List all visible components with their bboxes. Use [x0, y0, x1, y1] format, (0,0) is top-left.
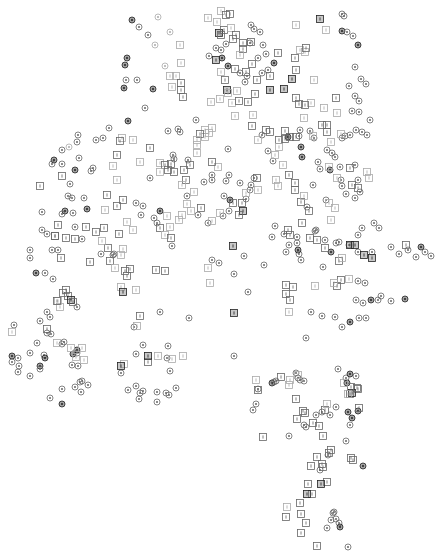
- circle-marker-icon: [355, 42, 361, 48]
- circle-marker-icon: [352, 162, 358, 168]
- circle-marker-icon: [136, 396, 142, 402]
- circle-marker-icon: [75, 363, 81, 369]
- box-marker-icon: [198, 205, 205, 212]
- circle-marker-icon: [59, 401, 65, 407]
- box-marker-icon: [124, 273, 131, 280]
- box-marker-icon: [287, 232, 294, 239]
- box-marker-icon: [9, 329, 16, 336]
- box-marker-icon: [283, 282, 290, 289]
- circle-marker-icon: [242, 79, 248, 85]
- box-marker-icon: [328, 139, 335, 146]
- box-marker-icon: [289, 76, 296, 83]
- circle-marker-icon: [173, 385, 179, 391]
- circle-marker-icon: [320, 264, 326, 270]
- circle-marker-icon: [339, 324, 345, 330]
- circle-marker-icon: [42, 355, 48, 361]
- circle-marker-icon: [167, 368, 173, 374]
- box-marker-icon: [306, 208, 313, 215]
- box-marker-icon: [293, 67, 300, 74]
- box-marker-icon: [102, 207, 109, 214]
- circle-marker-icon: [310, 182, 316, 188]
- circle-marker-icon: [324, 525, 330, 531]
- box-marker-icon: [297, 500, 304, 507]
- box-marker-icon: [333, 95, 340, 102]
- circle-marker-icon: [154, 389, 160, 395]
- circle-marker-icon: [353, 127, 359, 133]
- circle-marker-icon: [286, 242, 292, 248]
- circle-marker-icon: [299, 154, 305, 160]
- box-marker-icon: [323, 27, 330, 34]
- box-marker-icon: [52, 233, 59, 240]
- box-marker-icon: [120, 289, 127, 296]
- circle-marker-icon: [347, 422, 353, 428]
- circle-marker-icon: [360, 300, 366, 306]
- circle-marker-icon: [422, 249, 428, 255]
- circle-marker-icon: [367, 117, 373, 123]
- box-marker-icon: [188, 208, 195, 215]
- box-marker-icon: [107, 258, 114, 265]
- box-marker-icon: [292, 187, 299, 194]
- circle-marker-icon: [313, 412, 319, 418]
- circle-marker-icon: [362, 280, 368, 286]
- circle-marker-icon: [125, 387, 131, 393]
- circle-marker-icon: [61, 339, 67, 345]
- circle-marker-icon: [155, 14, 161, 20]
- circle-marker-icon: [227, 197, 233, 203]
- box-marker-icon: [207, 280, 214, 287]
- circle-marker-icon: [27, 247, 33, 253]
- box-marker-icon: [122, 268, 129, 275]
- circle-marker-icon: [220, 213, 226, 219]
- circle-marker-icon: [375, 297, 381, 303]
- box-marker-icon: [217, 96, 224, 103]
- circle-marker-icon: [93, 137, 99, 143]
- circle-marker-icon: [272, 223, 278, 229]
- box-marker-icon: [233, 32, 240, 39]
- box-marker-icon: [245, 99, 252, 106]
- circle-marker-icon: [259, 70, 265, 76]
- circle-marker-icon: [297, 127, 303, 133]
- box-marker-icon: [239, 200, 246, 207]
- circle-marker-icon: [418, 244, 424, 250]
- box-marker-icon: [348, 455, 355, 462]
- box-marker-icon: [267, 87, 274, 94]
- circle-marker-icon: [269, 234, 275, 240]
- box-marker-icon: [352, 242, 359, 249]
- box-marker-icon: [253, 377, 260, 384]
- circle-marker-icon: [138, 212, 144, 218]
- box-marker-icon: [236, 98, 243, 105]
- circle-marker-icon: [125, 118, 131, 124]
- circle-marker-icon: [338, 177, 344, 183]
- circle-marker-icon: [84, 206, 90, 212]
- circle-marker-icon: [37, 318, 43, 324]
- circle-marker-icon: [396, 251, 402, 257]
- circle-marker-icon: [388, 244, 394, 250]
- circle-marker-icon: [265, 67, 271, 73]
- circle-marker-icon: [308, 309, 314, 315]
- box-marker-icon: [194, 150, 201, 157]
- box-marker-icon: [83, 224, 90, 231]
- circle-marker-icon: [344, 380, 350, 386]
- box-marker-icon: [68, 297, 75, 304]
- box-marker-icon: [68, 345, 75, 352]
- circle-marker-icon: [317, 166, 323, 172]
- circle-marker-icon: [303, 335, 309, 341]
- box-marker-icon: [205, 265, 212, 272]
- circle-marker-icon: [9, 359, 15, 365]
- circle-marker-icon: [72, 167, 78, 173]
- circle-marker-icon: [206, 53, 212, 59]
- circle-marker-icon: [294, 234, 300, 240]
- box-marker-icon: [216, 30, 223, 37]
- circle-marker-icon: [205, 220, 211, 226]
- circle-marker-icon: [286, 433, 292, 439]
- circle-marker-icon: [333, 404, 339, 410]
- circle-marker-icon: [47, 314, 53, 320]
- box-marker-icon: [59, 173, 66, 180]
- circle-marker-icon: [260, 42, 266, 48]
- circle-marker-icon: [74, 304, 80, 310]
- box-marker-icon: [127, 266, 134, 273]
- box-marker-icon: [314, 543, 321, 550]
- circle-marker-icon: [48, 331, 54, 337]
- circle-marker-icon: [248, 22, 254, 28]
- box-marker-icon: [164, 213, 171, 220]
- circle-marker-icon: [147, 175, 153, 181]
